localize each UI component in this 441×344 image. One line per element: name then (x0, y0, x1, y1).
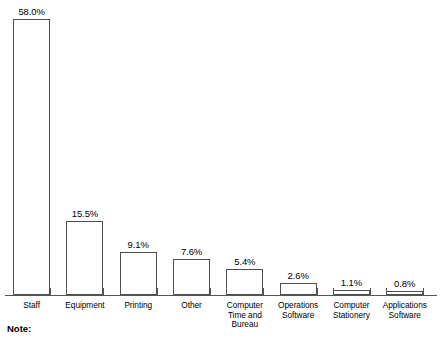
bar-value-label: 2.6% (272, 270, 325, 281)
bar-slot: 58.0% (5, 0, 58, 296)
category-label-computer-stationery: ComputerStationery (323, 301, 379, 320)
category-label-computer-time-and-bureau: ComputerTime andBureau (217, 301, 273, 330)
bar-printing[interactable] (120, 252, 157, 295)
bar-value-label: 1.1% (325, 277, 378, 288)
bar-slot: 0.8% (378, 0, 431, 296)
bar-slot: 1.1% (325, 0, 378, 296)
bar-slot: 2.6% (272, 0, 325, 296)
axis-tick (210, 288, 211, 296)
axis-tick (317, 288, 318, 296)
bar-value-label: 5.4% (218, 256, 271, 267)
category-label-staff: Staff (4, 301, 60, 311)
category-label-line: Printing (110, 301, 166, 311)
axis-tick (333, 288, 334, 296)
axis-tick (66, 288, 67, 296)
axis-tick (50, 288, 51, 296)
category-label-line: Staff (4, 301, 60, 311)
category-axis-labels: StaffEquipmentPrintingOtherComputerTime … (0, 301, 441, 339)
axis-tick (173, 288, 174, 296)
bar-value-label: 58.0% (5, 6, 58, 17)
category-label-equipment: Equipment (57, 301, 113, 311)
axis-tick (263, 288, 264, 296)
axis-tick (280, 288, 281, 296)
bar-computer-stationery[interactable] (333, 290, 370, 295)
bar-value-label: 7.6% (165, 246, 218, 257)
bar-slot: 9.1% (112, 0, 165, 296)
axis-tick (157, 288, 158, 296)
bar-applications-software[interactable] (386, 291, 423, 295)
axis-tick (386, 288, 387, 296)
axis-tick (423, 288, 424, 296)
category-label-other: Other (164, 301, 220, 311)
bar-slot: 7.6% (165, 0, 218, 296)
category-label-operations-software: OperationsSoftware (270, 301, 326, 320)
axis-tick (370, 288, 371, 296)
bar-value-label: 15.5% (58, 208, 111, 219)
bar-slot: 5.4% (218, 0, 271, 296)
axis-tick (120, 288, 121, 296)
bar-equipment[interactable] (66, 221, 103, 295)
bar-slot: 15.5% (58, 0, 111, 296)
bar-value-label: 9.1% (112, 239, 165, 250)
category-label-applications-software: ApplicationsSoftware (377, 301, 433, 320)
category-label-line: Stationery (323, 311, 379, 321)
chart-page: 58.0%15.5%9.1%7.6%5.4%2.6%1.1%0.8% Staff… (0, 0, 441, 344)
category-label-line: Software (270, 311, 326, 321)
plot-area: 58.0%15.5%9.1%7.6%5.4%2.6%1.1%0.8% (0, 0, 441, 296)
category-label-line: Equipment (57, 301, 113, 311)
axis-tick (103, 288, 104, 296)
category-label-line: Software (377, 311, 433, 321)
bar-other[interactable] (173, 259, 210, 295)
category-label-printing: Printing (110, 301, 166, 311)
bar-operations-software[interactable] (280, 283, 317, 295)
bar-computer-time-and-bureau[interactable] (226, 269, 263, 295)
axis-tick (226, 288, 227, 296)
bar-staff[interactable] (13, 19, 50, 295)
note-label: Note: (7, 323, 31, 335)
category-label-line: Bureau (217, 320, 273, 330)
axis-tick (13, 288, 14, 296)
category-label-line: Other (164, 301, 220, 311)
